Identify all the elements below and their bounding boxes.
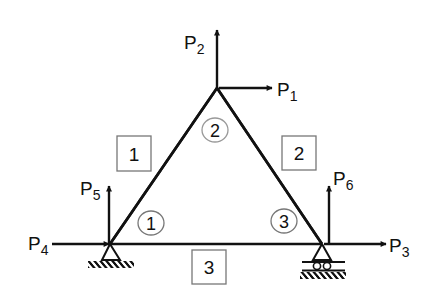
member-label-2: 2 <box>294 143 305 164</box>
label-p3: P3 <box>389 235 410 260</box>
label-p1: P1 <box>277 79 298 104</box>
member-label-1: 1 <box>129 144 140 165</box>
node-labels: 1 2 3 <box>138 118 297 235</box>
node-label-1: 1 <box>146 214 156 234</box>
label-p4: P4 <box>28 233 49 258</box>
load-labels: P1 P2 P3 P4 P5 P6 <box>28 32 410 260</box>
member-label-3: 3 <box>204 257 215 278</box>
label-p6: P6 <box>333 168 354 193</box>
label-p5: P5 <box>80 178 101 203</box>
node-label-3: 3 <box>279 212 289 232</box>
pin-support-icon <box>88 244 134 268</box>
roller-support-icon <box>300 244 346 279</box>
label-p2: P2 <box>184 32 205 57</box>
node-label-2: 2 <box>210 121 220 141</box>
truss-diagram: P1 P2 P3 P4 P5 P6 1 2 3 1 2 3 <box>0 0 437 306</box>
